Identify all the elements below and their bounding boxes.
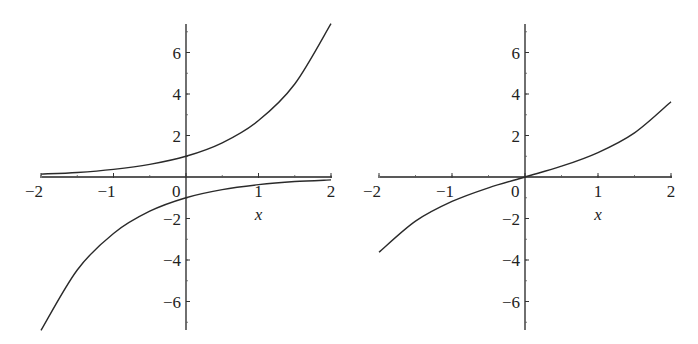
y-tick-label: −4 xyxy=(163,251,182,270)
y-tick-label: 2 xyxy=(173,127,182,146)
left-plot: −2−1012−6−4−2246x xyxy=(25,24,335,331)
y-tick-label: 2 xyxy=(512,127,521,146)
y-tick-label: −4 xyxy=(502,251,521,270)
x-tick-label: −1 xyxy=(97,182,115,201)
x-tick-label: 2 xyxy=(327,182,336,201)
y-tick-label: −6 xyxy=(163,293,181,312)
x-tick-label: −1 xyxy=(436,182,454,201)
y-tick-label: −6 xyxy=(502,293,520,312)
y-tick-label: 4 xyxy=(512,85,521,104)
x-tick-label: −2 xyxy=(25,182,43,201)
y-tick-label: 6 xyxy=(173,44,182,63)
x-tick-label: 1 xyxy=(594,182,603,201)
y-tick-label: −2 xyxy=(502,210,520,229)
x-tick-label: 0 xyxy=(511,182,520,201)
chart-canvas: −2−1012−6−4−2246x −2−1012−6−4−2246x xyxy=(0,0,698,344)
y-tick-label: −2 xyxy=(163,210,181,229)
y-tick-label: 4 xyxy=(173,85,182,104)
right-plot: −2−1012−6−4−2246x xyxy=(363,24,675,330)
x-axis-label: x xyxy=(593,205,602,224)
y-tick-label: 6 xyxy=(512,44,521,63)
x-tick-label: −2 xyxy=(363,182,381,201)
x-tick-label: 2 xyxy=(667,182,676,201)
x-axis-label: x xyxy=(254,205,263,224)
x-tick-label: 0 xyxy=(172,182,181,201)
